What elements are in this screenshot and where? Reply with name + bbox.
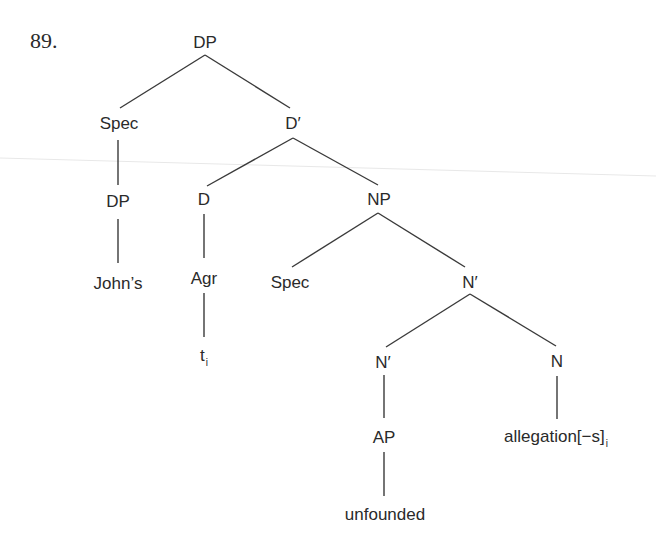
edge-np-spec_np bbox=[292, 213, 378, 267]
node-d-head: D bbox=[198, 191, 210, 208]
node-spec-np: Spec bbox=[271, 274, 310, 291]
edge-group bbox=[118, 55, 557, 496]
trace-label: t bbox=[200, 346, 205, 365]
leaf-allegations: allegation[−s]i bbox=[504, 428, 608, 445]
leaf-unfounded: unfounded bbox=[345, 506, 425, 523]
allegation-index: i bbox=[606, 438, 608, 449]
tree-edges bbox=[0, 0, 656, 542]
node-n-bar-lower: N′ bbox=[375, 354, 390, 371]
leaf-trace: ti bbox=[200, 347, 208, 364]
allegation-label: allegation[−s] bbox=[504, 427, 605, 446]
node-dp-root: DP bbox=[193, 34, 217, 51]
node-d-bar: D′ bbox=[285, 115, 300, 132]
node-n-bar-upper: N′ bbox=[462, 274, 477, 291]
trace-index: i bbox=[206, 357, 208, 368]
edge-n_bar_top-n_head bbox=[470, 294, 556, 346]
example-number: 89. bbox=[30, 30, 58, 52]
edge-d_bar-np bbox=[293, 138, 378, 185]
node-ap: AP bbox=[373, 429, 396, 446]
edge-np-n_bar_top bbox=[378, 213, 465, 267]
scan-artifact-line bbox=[0, 158, 656, 176]
node-n-head: N bbox=[551, 353, 563, 370]
node-agr: Agr bbox=[191, 270, 217, 287]
edge-dp_root-d_bar bbox=[205, 55, 290, 108]
syntax-tree-diagram: 89. DP Spec D′ DP John’s D Agr ti NP Spe… bbox=[0, 0, 656, 542]
edge-d_bar-d_head bbox=[207, 138, 293, 186]
node-spec-dp: Spec bbox=[100, 115, 139, 132]
node-np: NP bbox=[367, 191, 391, 208]
edge-dp_root-spec_top bbox=[120, 55, 205, 108]
leaf-johns: John’s bbox=[94, 275, 143, 292]
node-dp-specifier: DP bbox=[106, 193, 130, 210]
edge-n_bar_top-n_bar_low bbox=[386, 294, 470, 347]
